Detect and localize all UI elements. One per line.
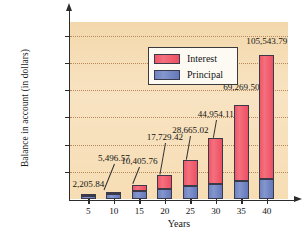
legend-item-interest: Interest: [154, 52, 232, 66]
bar-stack: [208, 138, 223, 199]
bar-stack: [106, 192, 121, 199]
bar-value-label: 2,205.84: [49, 179, 127, 189]
bar-segment-principal: [132, 191, 147, 199]
gridline: [70, 172, 288, 173]
bar-stack: [259, 55, 274, 199]
chart-legend: Interest Principal: [148, 47, 238, 85]
bar-segment-principal: [157, 189, 172, 199]
legend-swatch-interest: [154, 54, 180, 64]
y-axis-title: Balance in account (in dollars): [20, 18, 30, 198]
bar-segment-interest: [183, 160, 198, 187]
legend-swatch-principal: [154, 70, 180, 80]
x-axis-arrow-icon: [294, 196, 302, 202]
bar-segment-principal: [183, 186, 198, 199]
x-axis-line: [70, 200, 296, 201]
bar-stack: [183, 160, 198, 199]
bar-segment-principal: [106, 194, 121, 199]
bar-segment-principal: [208, 184, 223, 199]
bar-segment-principal: [259, 179, 274, 199]
bar-value-label: 105,543.79: [228, 36, 306, 46]
bar-stack: [234, 105, 249, 199]
bar-chart: Balance in account (in dollars) 20,00040…: [0, 0, 306, 247]
y-axis-line: [69, 10, 70, 201]
bar-stack: [132, 185, 147, 199]
bar-segment-interest: [157, 175, 172, 189]
bar-stack: [157, 175, 172, 199]
legend-item-principal: Principal: [154, 68, 232, 82]
bar-value-label: 10,405.76: [100, 156, 178, 166]
plot-area: 20,00040,00060,00080,000100,000120,000 5…: [70, 22, 288, 199]
gridline: [70, 145, 288, 146]
x-tick-label: 40: [252, 206, 282, 216]
x-axis-title: Years: [70, 218, 288, 229]
bar-segment-principal: [234, 181, 249, 199]
legend-label-principal: Principal: [187, 70, 223, 80]
bar-value-label: 44,954.11: [177, 109, 255, 119]
legend-label-interest: Interest: [187, 54, 217, 64]
y-axis-arrow-icon: [66, 3, 72, 11]
bar-segment-interest: [259, 55, 274, 179]
bar-segment-interest: [208, 138, 223, 184]
bar-value-label: 28,665.02: [151, 125, 229, 135]
